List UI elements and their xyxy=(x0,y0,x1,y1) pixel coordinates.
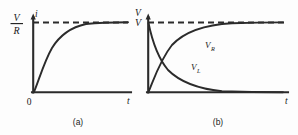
panel-b-vr-curve xyxy=(149,22,284,92)
panel-b-y-axis-value-label: V xyxy=(135,17,143,28)
rl-circuit-response-figure: i V R 0 t (a) V xyxy=(0,0,298,135)
panel-b-vr-label-group: V R xyxy=(205,40,215,52)
panel-b-vl-label-subscript: L xyxy=(196,67,201,74)
panel-a-origin-label: 0 xyxy=(27,97,32,107)
panel-a-x-axis-label: t xyxy=(127,96,130,106)
panel-b-vr-label-subscript: R xyxy=(210,45,215,52)
panel-b-vl-label-group: V L xyxy=(191,62,201,74)
panel-a-asymptote-denominator: R xyxy=(12,25,19,36)
panel-a-caption: (a) xyxy=(73,117,84,127)
figure-container: i V R 0 t (a) V xyxy=(0,0,298,135)
panel-b-y-axis-arrowhead xyxy=(146,14,151,20)
panel-a-asymptote-numerator: V xyxy=(13,12,21,23)
panel-a-y-axis-label: i xyxy=(35,9,38,19)
panel-b-vl-curve xyxy=(149,23,284,92)
panel-b-caption: (b) xyxy=(213,117,224,127)
panel-b-group: V V V R V L t (b) xyxy=(135,8,288,127)
panel-a-current-curve xyxy=(34,22,128,92)
panel-b-x-axis-label: t xyxy=(285,96,288,106)
panel-a-group: i V R 0 t (a) xyxy=(11,9,132,127)
